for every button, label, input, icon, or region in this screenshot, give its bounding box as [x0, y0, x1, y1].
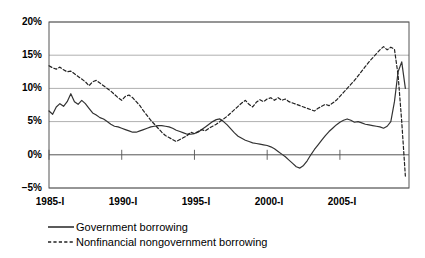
legend-label-nonfinancial: Nonfinancial nongovernment borrowing	[76, 236, 267, 248]
series-line-nonfinancial	[49, 47, 405, 176]
plot-frame	[49, 22, 409, 188]
legend-item-nonfinancial: Nonfinancial nongovernment borrowing	[48, 236, 267, 248]
series-layer	[49, 47, 405, 176]
plot-border	[49, 22, 409, 188]
series-line-government	[49, 62, 405, 168]
chart-figure: 20% 15% 10% 5% 0% −5% 1985-I 1990-I 1995…	[0, 0, 425, 258]
gridlines	[49, 22, 409, 188]
legend-swatch-solid	[48, 222, 74, 232]
legend-label-government: Government borrowing	[76, 221, 188, 233]
legend-item-government: Government borrowing	[48, 221, 188, 233]
legend-swatch-dashed	[48, 237, 74, 247]
plot-area	[0, 0, 425, 258]
